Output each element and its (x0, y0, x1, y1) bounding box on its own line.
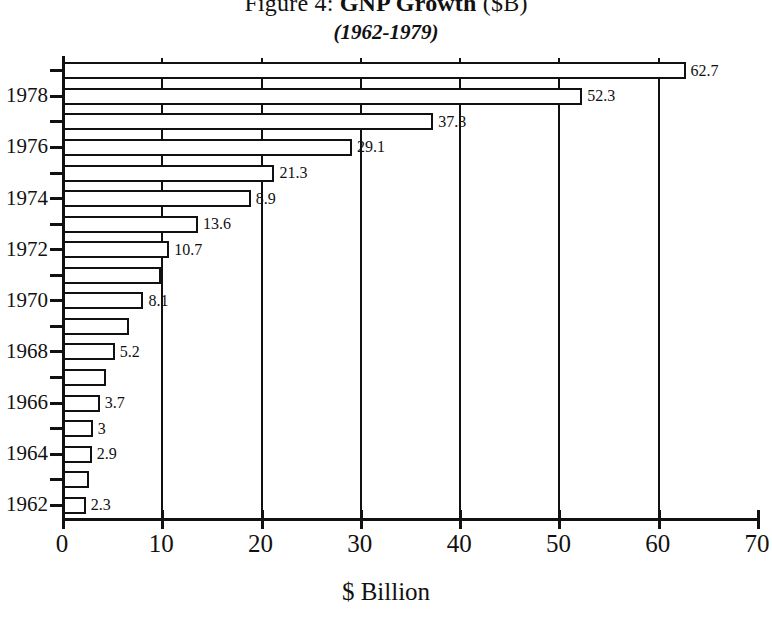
y-tick-1976 (50, 146, 64, 149)
x-tick-30 (360, 510, 363, 529)
gridline-x-60 (658, 58, 660, 520)
title-units: ($B) (483, 0, 528, 16)
y-tick-1966 (50, 402, 64, 405)
x-tick-label-50: 50 (528, 530, 588, 558)
bar-value-label-1972: 10.7 (174, 242, 202, 258)
y-tick-1979 (50, 69, 64, 72)
y-tick-label-1976: 1976 (0, 136, 48, 157)
y-tick-1965 (50, 427, 64, 430)
page-title: Figure 4: GNP Growth ($B) (0, 0, 772, 17)
x-tick-label-40: 40 (429, 530, 489, 558)
bar-1965 (63, 420, 93, 437)
gridline-x-50 (558, 58, 560, 520)
bar-1967 (63, 369, 106, 386)
x-axis-title: $ Billion (0, 578, 772, 606)
y-tick-label-1964: 1964 (0, 443, 48, 464)
bar-value-label-1975: 21.3 (279, 165, 307, 181)
y-tick-label-1974: 1974 (0, 188, 48, 209)
x-tick-label-60: 60 (628, 530, 688, 558)
y-tick-1977 (50, 120, 64, 123)
y-tick-label-1978: 1978 (0, 85, 48, 106)
bar-value-label-1964: 2.9 (97, 446, 117, 462)
bar-1977 (63, 113, 433, 130)
chart-subtitle: (1962-1979) (0, 20, 772, 45)
title-main-text: GNP Growth (340, 0, 477, 16)
bar-1976 (63, 139, 352, 156)
bar-1963 (63, 471, 89, 488)
y-tick-1967 (50, 376, 64, 379)
y-tick-1963 (50, 478, 64, 481)
y-tick-1962 (50, 504, 64, 507)
bar-value-label-1974: 8.9 (256, 191, 276, 207)
x-tick-40 (459, 510, 462, 529)
bar-value-label-1978: 52.3 (587, 88, 615, 104)
x-tick-10 (161, 510, 164, 529)
x-tick-20 (261, 510, 264, 529)
y-tick-1972 (50, 248, 64, 251)
y-tick-label-1970: 1970 (0, 290, 48, 311)
bar-1969 (63, 318, 129, 335)
y-tick-label-1972: 1972 (0, 239, 48, 260)
y-tick-label-1968: 1968 (0, 341, 48, 362)
bar-1971 (63, 267, 161, 284)
bar-value-label-1970: 8.1 (148, 293, 168, 309)
bar-1975 (63, 165, 274, 182)
bar-1970 (63, 292, 143, 309)
x-tick-70 (757, 510, 760, 529)
bar-1972 (63, 241, 169, 258)
bar-1978 (63, 88, 582, 105)
bar-1962 (63, 497, 86, 514)
y-tick-1968 (50, 350, 64, 353)
bar-value-label-1968: 5.2 (120, 344, 140, 360)
bar-1973 (63, 216, 198, 233)
y-tick-1969 (50, 325, 64, 328)
title-figure-number: Figure 4: (244, 0, 333, 16)
y-tick-1970 (50, 299, 64, 302)
bar-value-label-1962: 2.3 (91, 497, 111, 513)
x-tick-label-70: 70 (727, 530, 772, 558)
bar-value-label-1973: 13.6 (203, 216, 231, 232)
x-tick-label-10: 10 (131, 530, 191, 558)
bar-value-label-1977: 37.3 (438, 114, 466, 130)
bar-value-label-1979: 62.7 (691, 63, 719, 79)
x-tick-60 (658, 510, 661, 529)
y-tick-1974 (50, 197, 64, 200)
y-tick-1973 (50, 223, 64, 226)
bar-value-label-1965: 3 (98, 421, 106, 437)
y-tick-1975 (50, 172, 64, 175)
bar-1968 (63, 343, 115, 360)
bar-1966 (63, 395, 100, 412)
x-tick-label-30: 30 (330, 530, 390, 558)
x-tick-label-0: 0 (32, 530, 92, 558)
y-tick-label-1966: 1966 (0, 392, 48, 413)
y-tick-1971 (50, 274, 64, 277)
bar-1979 (63, 62, 686, 79)
x-axis-line (62, 518, 759, 521)
y-tick-1978 (50, 95, 64, 98)
x-tick-label-20: 20 (231, 530, 291, 558)
y-tick-1964 (50, 453, 64, 456)
bar-1974 (63, 190, 251, 207)
bar-value-label-1976: 29.1 (357, 139, 385, 155)
x-tick-50 (558, 510, 561, 529)
bar-value-label-1966: 3.7 (105, 395, 125, 411)
y-tick-label-1962: 1962 (0, 494, 48, 515)
bar-1964 (63, 446, 92, 463)
